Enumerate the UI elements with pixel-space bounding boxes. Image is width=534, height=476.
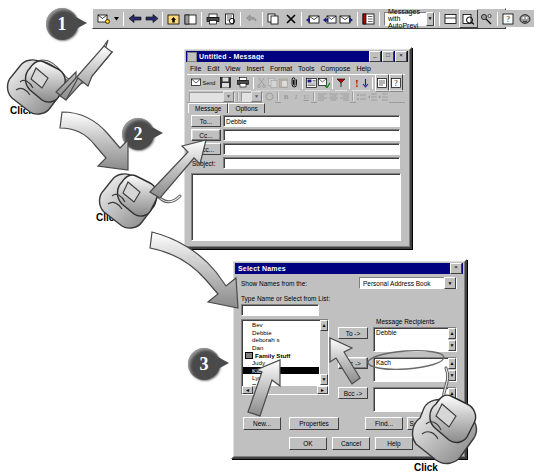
current-view-combo[interactable]: Messages with AutoPrevi ▼ xyxy=(384,12,435,26)
italic-icon[interactable]: I xyxy=(291,91,301,103)
properties-icon[interactable] xyxy=(375,74,389,92)
address-book-combo[interactable]: Personal Address Book ▼ xyxy=(359,277,457,289)
cc-recipients-field[interactable]: Kach ▲ ▼ xyxy=(373,357,457,382)
list-item[interactable]: Rich Martin xyxy=(243,382,319,385)
check-names-icon[interactable] xyxy=(317,75,330,91)
send-options-button[interactable]: Send Options... xyxy=(407,417,457,430)
tab-message[interactable]: Message xyxy=(188,103,228,113)
undo-arrow-icon[interactable] xyxy=(243,10,260,27)
scroll-up-arrow-icon[interactable]: ▲ xyxy=(320,320,328,331)
names-list-hscroll[interactable]: ◄ ► xyxy=(242,386,328,394)
reply-all-icon[interactable] xyxy=(321,10,338,27)
ok-button[interactable]: OK xyxy=(289,437,327,450)
menu-edit[interactable]: Edit xyxy=(207,65,219,72)
chevron-down-icon[interactable]: ▼ xyxy=(426,12,434,26)
save-icon[interactable] xyxy=(217,75,234,91)
menu-tools[interactable]: Tools xyxy=(298,65,314,72)
list-item[interactable]: Family Stuff xyxy=(243,351,319,359)
type-name-input[interactable] xyxy=(241,304,319,316)
help-button[interactable]: Help xyxy=(375,437,413,450)
menu-compose[interactable]: Compose xyxy=(320,65,350,72)
list-item[interactable]: Kach xyxy=(243,367,319,375)
cc-arrow-button[interactable]: Cc -> xyxy=(338,357,368,369)
cc-button[interactable]: Cc... xyxy=(191,129,221,141)
close-icon[interactable]: × xyxy=(450,263,462,274)
underline-icon[interactable]: U xyxy=(301,91,311,103)
align-left-icon[interactable] xyxy=(317,91,328,103)
list-item[interactable]: Debbie xyxy=(243,329,319,337)
minimize-icon[interactable]: _ xyxy=(369,51,381,62)
list-item[interactable]: Dan xyxy=(243,344,319,352)
address-book-icon[interactable] xyxy=(360,10,377,27)
up-folder-icon[interactable] xyxy=(165,10,182,27)
list-item[interactable]: Judy xyxy=(243,359,319,367)
insert-item-icon[interactable] xyxy=(305,75,317,91)
bold-icon[interactable]: B xyxy=(281,91,291,103)
close-icon[interactable]: × xyxy=(395,51,407,62)
find-button[interactable]: Find... xyxy=(365,417,403,430)
arrow-right-icon[interactable] xyxy=(143,10,160,27)
scroll-up-arrow-icon[interactable]: ▲ xyxy=(448,358,456,369)
list-item[interactable]: deborah s xyxy=(243,336,319,344)
scroll-down-arrow-icon[interactable]: ▼ xyxy=(448,340,456,351)
office-assistant-icon[interactable] xyxy=(517,10,534,27)
to-recipients-field[interactable]: Debbie ▲ ▼ xyxy=(373,327,457,352)
organize-icon[interactable] xyxy=(478,10,495,27)
scroll-up-arrow-icon[interactable]: ▲ xyxy=(448,328,456,339)
question-mark-icon[interactable]: ? xyxy=(389,74,403,92)
menu-file[interactable]: File xyxy=(190,65,201,72)
scroll-left-arrow-icon[interactable]: ◄ xyxy=(242,386,253,394)
chevron-down-icon[interactable]: ▼ xyxy=(444,277,456,289)
scroll-right-arrow-icon[interactable]: ► xyxy=(317,386,328,394)
tab-options[interactable]: Options xyxy=(228,103,264,113)
subject-field[interactable] xyxy=(223,157,400,169)
flag-message-icon[interactable] xyxy=(335,75,347,91)
question-mark-icon[interactable]: ? xyxy=(500,10,517,27)
bcc-arrow-button[interactable]: Bcc -> xyxy=(338,387,368,399)
to-arrow-button[interactable]: To -> xyxy=(338,327,368,339)
chevron-down-icon[interactable]: ▼ xyxy=(223,91,234,102)
printer-icon[interactable] xyxy=(234,75,251,91)
copy-icon[interactable] xyxy=(265,10,282,27)
list-item[interactable]: Bev xyxy=(243,321,319,329)
names-list[interactable]: BevDebbiedeborah sDanFamily StuffJudyKac… xyxy=(241,319,329,395)
forward-message-icon[interactable] xyxy=(338,10,355,27)
names-list-vscroll[interactable]: ▲ ▼ xyxy=(320,320,328,385)
increase-indent-icon[interactable] xyxy=(378,91,389,103)
send-button[interactable]: Send xyxy=(189,75,217,91)
envelope-icon[interactable] xyxy=(187,52,197,62)
to-recipients-scrollbar[interactable]: ▲ ▼ xyxy=(448,328,456,351)
bcc-recipients-field[interactable]: ▲ ▼ xyxy=(373,387,457,412)
list-item[interactable]: Lyn xyxy=(243,374,319,382)
menu-format[interactable]: Format xyxy=(270,65,292,72)
folder-list-icon[interactable] xyxy=(182,10,199,27)
bcc-recipients-scrollbar[interactable]: ▲ ▼ xyxy=(448,388,456,411)
menu-help[interactable]: Help xyxy=(356,65,370,72)
select-names-titlebar[interactable]: Select Names × xyxy=(235,263,463,274)
message-body[interactable] xyxy=(191,173,401,241)
align-center-icon[interactable] xyxy=(328,91,339,103)
new-button[interactable]: New... xyxy=(243,417,281,430)
delete-x-icon[interactable] xyxy=(282,10,299,27)
bcc-button[interactable]: Bcc... xyxy=(191,143,221,155)
message-window-titlebar[interactable]: Untitled - Message _ □ × xyxy=(186,51,408,62)
new-mail-icon[interactable] xyxy=(95,10,112,27)
scroll-up-arrow-icon[interactable]: ▲ xyxy=(448,388,456,399)
importance-low-icon[interactable] xyxy=(361,75,370,91)
chevron-down-icon[interactable]: ▼ xyxy=(251,91,262,102)
scroll-down-arrow-icon[interactable]: ▼ xyxy=(448,400,456,411)
properties-button[interactable]: Properties xyxy=(289,417,339,430)
decrease-indent-icon[interactable] xyxy=(367,91,378,103)
cc-recipients-scrollbar[interactable]: ▲ ▼ xyxy=(448,358,456,381)
menu-view[interactable]: View xyxy=(225,65,240,72)
arrow-left-icon[interactable] xyxy=(126,10,143,27)
menu-insert[interactable]: Insert xyxy=(246,65,264,72)
attach-file-icon[interactable] xyxy=(289,75,300,91)
scroll-down-arrow-icon[interactable]: ▼ xyxy=(320,374,328,385)
bcc-field[interactable] xyxy=(223,143,400,155)
to-button[interactable]: To... xyxy=(191,115,221,127)
align-right-icon[interactable] xyxy=(339,91,350,103)
preview-pane-icon[interactable] xyxy=(442,10,459,27)
find-magnifier-icon[interactable] xyxy=(459,9,478,28)
reply-icon[interactable] xyxy=(304,10,321,27)
